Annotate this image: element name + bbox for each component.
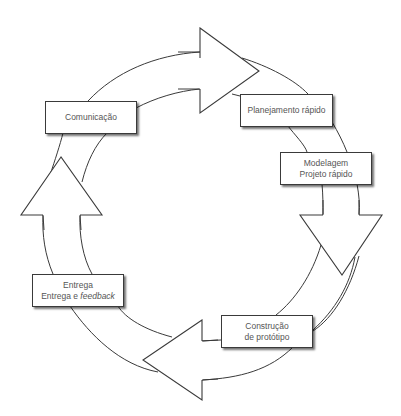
stage-construcao: Construção de protótipo <box>221 315 313 348</box>
ring-inner-left-top <box>82 133 107 182</box>
ring-outer-right-1 <box>332 122 347 152</box>
stage-label-line1: Construção <box>245 321 288 332</box>
arrow-left-icon <box>143 320 202 400</box>
stage-label-line1: Modelagem <box>304 158 348 169</box>
ring-inner-right-3 <box>276 245 321 315</box>
stage-label-line2-italic: feedback <box>80 291 115 301</box>
ring-inner-right-1 <box>288 126 307 152</box>
stage-label-line2-prefix: Entrega e <box>41 291 80 301</box>
cycle-diagram <box>0 0 401 416</box>
ring-inner-top-right <box>232 94 240 96</box>
arrow-down-icon <box>300 215 382 275</box>
ring-outer-left <box>43 215 53 274</box>
stage-entrega: Entrega Entrega e feedback <box>32 274 124 307</box>
stage-comunicacao: Comunicação <box>45 101 137 134</box>
ring-inner-bottom <box>118 306 172 337</box>
ring-outer-right-3 <box>313 257 355 330</box>
stage-label-line2: de protótipo <box>245 332 290 343</box>
stage-label-line2: Projeto rápido <box>300 169 353 180</box>
stage-label-line1: Entrega <box>63 280 93 291</box>
ring-inner-left <box>80 215 92 274</box>
stage-label: Comunicação <box>65 112 117 123</box>
ring-outer-bottom-left <box>70 306 158 372</box>
ring-inner-top-left <box>136 89 200 108</box>
stage-planejamento: Planejamento rápido <box>240 94 333 127</box>
ring-outer-top-left <box>88 52 200 101</box>
ring-outer-bottom <box>202 347 293 380</box>
arrow-up-icon <box>21 157 102 215</box>
stage-modelagem: Modelagem Projeto rápido <box>280 152 372 185</box>
stage-label-line2: Entrega e feedback <box>41 291 115 302</box>
stage-label: Planejamento rápido <box>248 105 326 116</box>
